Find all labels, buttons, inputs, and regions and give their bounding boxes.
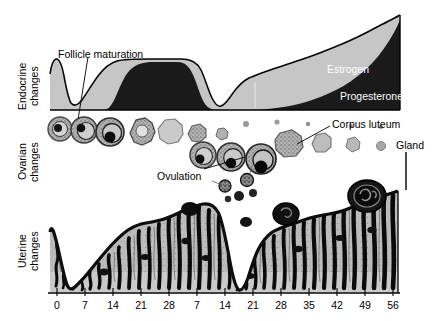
annotation-corpus-luteum: Corpus luteum bbox=[332, 118, 400, 130]
follicle-graafian-1 bbox=[130, 118, 155, 145]
x-tick-label: 35 bbox=[297, 299, 321, 311]
annotation-estrogen: Estrogen bbox=[327, 63, 369, 75]
x-tick-label: 21 bbox=[241, 299, 265, 311]
follicle-secondary-1 bbox=[96, 118, 124, 146]
x-tick-label: 7 bbox=[73, 299, 97, 311]
x-tick-label: 21 bbox=[129, 299, 153, 311]
x-tick-label: 14 bbox=[101, 299, 125, 311]
row-label-endocrine: Endocrine changes bbox=[16, 44, 40, 128]
annotation-progesterone: Progesterone bbox=[340, 90, 403, 102]
x-tick-label: 28 bbox=[269, 299, 293, 311]
row-label-ovarian: Ovarian changes bbox=[16, 124, 40, 200]
corpus-albicans-1 bbox=[216, 128, 228, 140]
x-tick-label: 49 bbox=[353, 299, 377, 311]
follicle-primary-1 bbox=[71, 117, 97, 143]
annotation-ovulation: Ovulation bbox=[157, 170, 201, 182]
x-tick-label: 56 bbox=[381, 299, 405, 311]
corpus-albicans-3 bbox=[377, 142, 386, 151]
follicle-primordial-1 bbox=[48, 117, 72, 141]
endometrium-body bbox=[48, 190, 400, 294]
annotation-gland: Gland bbox=[396, 139, 424, 151]
corpus-albicans-2 bbox=[346, 137, 360, 152]
gland-large-2 bbox=[348, 180, 386, 212]
remnant-dot-2 bbox=[274, 119, 279, 124]
x-tick-label: 42 bbox=[325, 299, 349, 311]
corpus-luteum-early-1 bbox=[188, 124, 206, 142]
follicle-graafian-2 bbox=[246, 144, 276, 174]
x-tick-label: 28 bbox=[157, 299, 181, 311]
remnant-dot-3 bbox=[306, 122, 310, 126]
x-tick-label: 0 bbox=[45, 299, 69, 311]
gland-large-1 bbox=[273, 203, 299, 225]
remnant-dot-1 bbox=[243, 121, 249, 127]
follicle-primary-2 bbox=[217, 143, 245, 171]
menstrual-cycle-diagram: Endocrine changes Ovarian changes Uterin… bbox=[0, 0, 435, 321]
row-label-uterine: Uterine changes bbox=[16, 212, 40, 290]
uterine-panel bbox=[48, 180, 400, 296]
follicle-ruptured-1 bbox=[158, 119, 183, 144]
x-tick-label: 7 bbox=[185, 299, 209, 311]
follicle-primordial-2 bbox=[190, 142, 216, 168]
follicle-maturation-leader bbox=[77, 57, 88, 126]
corpus-luteum-regressing bbox=[312, 133, 331, 152]
x-tick-label: 14 bbox=[213, 299, 237, 311]
annotation-follicle-maturation: Follicle maturation bbox=[58, 48, 143, 60]
ovulation-oocytes bbox=[212, 166, 257, 202]
